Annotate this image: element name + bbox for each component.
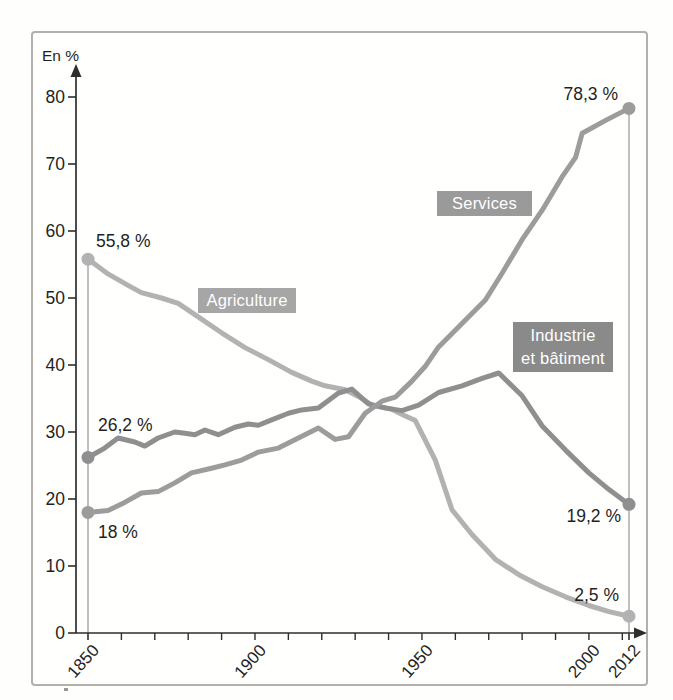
scan-artifact-speck [64, 688, 68, 691]
annotation-agriculture-end: 2,5 % [574, 585, 619, 605]
x-tick-label-2000: 2000 [564, 641, 603, 682]
y-tick-label-40: 40 [46, 355, 66, 375]
series-label-services: Services [437, 191, 532, 216]
y-tick-label-50: 50 [46, 288, 66, 308]
annotation-agriculture-start: 55,8 % [96, 231, 150, 251]
annotation-industrie-end: 19,2 % [567, 506, 621, 526]
x-tick-label-1850: 1850 [64, 641, 103, 682]
series-end-dot-industrie [623, 498, 636, 511]
y-tick-label-0: 0 [55, 623, 65, 643]
y-tick-label-80: 80 [46, 87, 66, 107]
x-tick-label-1900: 1900 [231, 641, 270, 682]
series-start-dot-industrie [82, 451, 95, 464]
y-tick-label-10: 10 [46, 556, 66, 576]
series-line-services [88, 108, 629, 512]
annotation-services-start: 18 % [98, 522, 138, 542]
series-line-agriculture [88, 259, 629, 616]
y-tick-label-60: 60 [46, 221, 66, 241]
series-end-dot-agriculture [623, 610, 636, 623]
series-label-agriculture-text: Agriculture [206, 289, 287, 312]
series-label-industrie: Industrie et bâtiment [513, 322, 613, 372]
y-axis-title: En % [42, 47, 79, 64]
series-label-industrie-line1: Industrie [530, 324, 595, 347]
annotation-services-end: 78,3 % [564, 84, 618, 104]
annotation-industrie-start: 26,2 % [98, 415, 152, 435]
y-axis-arrow-icon [71, 64, 82, 77]
chart-page: 01020304050607080En %1850190019502000201… [0, 0, 673, 700]
x-axis-arrow-icon [634, 628, 647, 639]
series-start-dot-agriculture [82, 253, 95, 266]
y-tick-label-20: 20 [46, 489, 66, 509]
series-end-dot-services [623, 102, 636, 115]
x-tick-label-1950: 1950 [397, 641, 436, 682]
series-start-dot-services [82, 506, 95, 519]
series-label-industrie-line2: et bâtiment [521, 347, 605, 370]
series-label-services-text: Services [452, 192, 517, 215]
y-tick-label-30: 30 [46, 422, 66, 442]
y-tick-label-70: 70 [46, 154, 66, 174]
x-tick-label-2012: 2012 [605, 641, 644, 682]
series-label-agriculture: Agriculture [198, 288, 296, 313]
